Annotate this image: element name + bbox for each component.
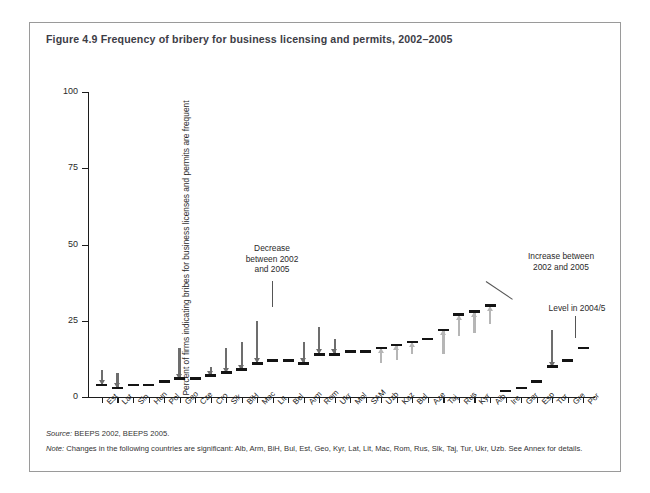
y-tick [82, 92, 88, 93]
level-bar [547, 365, 558, 368]
note-label: Note: [46, 444, 64, 453]
level-bar [236, 368, 247, 371]
note-text: Changes in the following countries are s… [64, 444, 582, 453]
level-bar [469, 310, 480, 313]
x-tick [428, 398, 429, 403]
x-tick [552, 398, 553, 403]
level-bar [96, 384, 107, 387]
level-bar [360, 350, 371, 353]
annotation-decrease: Decrease between 2002 and 2005 [226, 243, 318, 275]
level-bar [143, 384, 154, 387]
x-tick [443, 398, 444, 403]
annotation-level-leader [575, 316, 576, 338]
page-title: Figure 4.9 Frequency of bribery for busi… [46, 33, 453, 45]
level-bar [221, 371, 232, 374]
level-bar [298, 362, 309, 365]
level-bar [531, 380, 542, 383]
level-bar [438, 329, 449, 332]
x-tick [242, 398, 243, 403]
x-tick [149, 398, 150, 403]
x-tick [335, 398, 336, 403]
footnote: Note: Changes in the following countries… [46, 444, 582, 453]
y-tick-label: 0 [52, 391, 78, 401]
decrease-arrow-shaft [256, 321, 258, 364]
x-tick [366, 398, 367, 403]
level-bar [190, 377, 201, 380]
plot-area: Percent of firms indicating bribes for b… [88, 92, 594, 397]
level-bar [407, 341, 418, 344]
level-bar [391, 344, 402, 347]
level-bar [376, 347, 387, 350]
x-tick [117, 398, 118, 403]
x-tick [195, 398, 196, 403]
level-bar [112, 387, 123, 390]
x-tick [304, 398, 305, 403]
level-bar [252, 362, 263, 365]
level-bar [453, 313, 464, 316]
source-label: Source: [46, 429, 72, 438]
level-bar [422, 338, 433, 341]
x-tick [226, 398, 227, 403]
x-tick [412, 398, 413, 403]
level-bar [205, 374, 216, 377]
level-bar [500, 390, 511, 393]
x-tick [257, 398, 258, 403]
x-tick [180, 398, 181, 403]
level-bar [267, 359, 278, 362]
x-tick [273, 398, 274, 403]
figure-page: Figure 4.9 Frequency of bribery for busi… [0, 0, 650, 493]
x-tick [381, 398, 382, 403]
x-tick [474, 398, 475, 403]
level-bar [562, 359, 573, 362]
x-tick [537, 398, 538, 403]
x-tick [459, 398, 460, 403]
x-tick [288, 398, 289, 403]
y-tick [82, 168, 88, 169]
x-tick [102, 398, 103, 403]
y-tick-label: 75 [52, 162, 78, 172]
level-bar [516, 387, 527, 390]
x-tick [506, 398, 507, 403]
level-bar [174, 377, 185, 380]
x-tick [490, 398, 491, 403]
annotation-level: Level in 2004/5 [531, 303, 623, 314]
level-bar [283, 359, 294, 362]
x-tick [583, 398, 584, 403]
x-tick [319, 398, 320, 403]
level-bar [485, 304, 496, 307]
y-tick [82, 321, 88, 322]
x-tick [133, 398, 134, 403]
source-text: BEEPS 2002, BEEPS 2005. [72, 429, 169, 438]
level-bar [578, 347, 589, 350]
y-tick-label: 50 [52, 239, 78, 249]
y-axis-title: Percent of firms indicating bribes for b… [180, 98, 192, 398]
level-bar [159, 380, 170, 383]
y-tick-label: 100 [52, 86, 78, 96]
annotation-increase: Increase between 2002 and 2005 [505, 251, 617, 272]
x-tick [568, 398, 569, 403]
y-tick [82, 245, 88, 246]
level-bar [345, 350, 356, 353]
y-tick [82, 397, 88, 398]
y-tick-label: 25 [52, 315, 78, 325]
annotation-decrease-leader [272, 281, 273, 307]
level-bar [128, 384, 139, 387]
x-tick [211, 398, 212, 403]
level-bar [314, 353, 325, 356]
x-tick [521, 398, 522, 403]
x-tick [164, 398, 165, 403]
source-note: Source: BEEPS 2002, BEEPS 2005. [46, 429, 169, 438]
level-bar [329, 353, 340, 356]
x-tick [350, 398, 351, 403]
x-tick [397, 398, 398, 403]
